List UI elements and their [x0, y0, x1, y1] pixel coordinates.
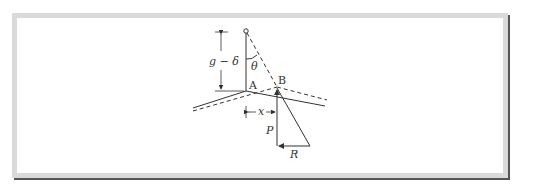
theta-label: θ [251, 60, 258, 73]
x-label: x [258, 105, 265, 118]
r-label: R [289, 148, 298, 161]
pivot-point [244, 29, 248, 33]
point-a-label: A [248, 79, 258, 92]
pendulum-force-diagram: θ g − δ A B x P R [0, 0, 536, 186]
p-label: P [265, 124, 274, 137]
g-minus-delta-label: g − δ [209, 55, 239, 68]
theta-arc [246, 55, 257, 59]
point-b-label: B [278, 74, 286, 87]
resultant-line [277, 88, 310, 146]
surface-left-solid [193, 91, 246, 108]
